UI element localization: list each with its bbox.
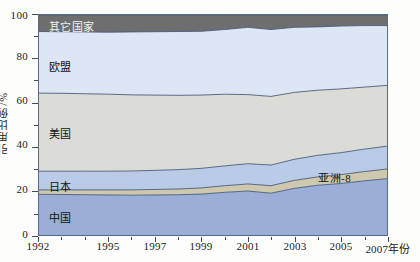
x-tick-label-1995: 1995 [88, 240, 128, 252]
x-tick-2004 [318, 237, 319, 240]
x-tick-label-2005: 2005 [321, 240, 361, 252]
y-tick-label-60: 60 [0, 94, 28, 106]
series-label-eu: 欧盟 [49, 58, 72, 74]
y-tick-label-40: 40 [0, 138, 28, 150]
x-tick-label-2003: 2003 [275, 240, 315, 252]
x-tick-1998 [178, 237, 179, 240]
x-tick-label-1997: 1997 [135, 240, 175, 252]
x-tick-2002 [271, 237, 272, 240]
chart-figure: 引用比例/% 100 80 60 40 20 0 1992 1995 1997 … [0, 0, 420, 262]
stacked-area-svg [39, 15, 387, 235]
x-tick-label-1992: 1992 [18, 240, 58, 252]
series-label-asia8: 亚洲-8 [318, 169, 351, 185]
x-tick-1993 [61, 237, 62, 240]
y-tick-label-100: 100 [0, 9, 28, 21]
series-label-china: 中国 [49, 209, 72, 225]
series-label-japan: 日本 [49, 178, 72, 194]
y-tick-label-80: 80 [0, 50, 28, 62]
x-tick-label-2001: 2001 [228, 240, 268, 252]
x-tick-2000 [225, 237, 226, 240]
plot-area [38, 14, 388, 236]
x-tick-1994 [85, 237, 86, 240]
area-band-欧盟 [39, 26, 387, 97]
series-label-other: 其它国家 [49, 18, 95, 34]
x-tick-1996 [131, 237, 132, 240]
x-tick-label-1999: 1999 [181, 240, 221, 252]
y-tick-label-0: 0 [0, 228, 28, 240]
x-tick-label-2007: 2007年份 [358, 240, 418, 256]
series-label-usa: 美国 [49, 125, 72, 141]
y-tick-label-20: 20 [0, 183, 28, 195]
